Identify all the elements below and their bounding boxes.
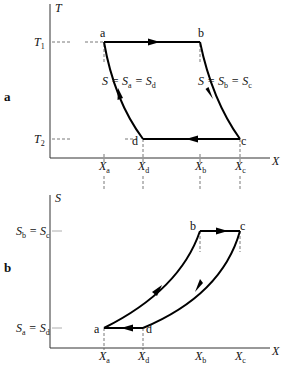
s-axis-label: S xyxy=(55,191,61,205)
panel-a: a T X T1 T2 xyxy=(4,1,280,190)
carnot-cycle-diagram: a T X T1 T2 xyxy=(0,0,282,367)
arrow-cd-icon xyxy=(186,136,198,143)
arrow-bc-icon xyxy=(206,87,214,99)
tick-xd-b: Xd xyxy=(137,349,149,365)
tick-sb-sc: Sb = Sc xyxy=(16,224,50,240)
point-a-label-b: a xyxy=(94,322,100,336)
x-axis-label-b: X xyxy=(271,344,280,358)
panel-b-label: b xyxy=(4,260,11,275)
tick-xa-b: Xa xyxy=(98,349,110,365)
annotation-sb-sc: S = Sb = Sc xyxy=(198,74,252,90)
svg-text:T1: T1 xyxy=(34,35,45,51)
tick-xc-b: Xc xyxy=(234,349,246,365)
arrow-da-b-icon xyxy=(121,325,133,332)
tick-xb-b: Xb xyxy=(194,349,206,365)
adiabat-da xyxy=(104,42,143,139)
tick-t2: T2 xyxy=(34,132,45,148)
arrow-da-icon xyxy=(118,88,124,100)
svg-text:T2: T2 xyxy=(34,132,45,148)
arrow-cd-b-icon xyxy=(195,279,203,292)
arrow-bc-b-icon xyxy=(216,228,228,235)
point-b-label-a: b xyxy=(198,26,204,40)
adiabat-bc xyxy=(200,42,240,139)
point-d-label-b: d xyxy=(146,322,152,336)
tick-xc-a: Xc xyxy=(234,159,246,175)
annotation-sa-sd: S = Sa = Sd xyxy=(102,74,156,90)
point-d-label-a: d xyxy=(132,134,138,148)
point-c-label-b: c xyxy=(240,219,245,233)
tick-xd-a: Xd xyxy=(137,159,149,175)
point-b-label-b: b xyxy=(190,219,196,233)
x-axis-label-a: X xyxy=(271,154,280,168)
tick-xa-a: Xa xyxy=(98,159,110,175)
isotherm-cd-b xyxy=(143,231,240,328)
point-c-label-a: c xyxy=(241,134,246,148)
panel-b: b S X Sb = Sc Sa = Sd a b c d Xa Xd xyxy=(4,191,280,365)
arrow-ab-icon xyxy=(148,39,160,46)
tick-xb-a: Xb xyxy=(194,159,206,175)
tick-sa-sd: Sa = Sd xyxy=(16,321,50,337)
point-a-label-a: a xyxy=(100,26,106,40)
panel-a-label: a xyxy=(4,89,11,104)
t-axis-label: T xyxy=(55,1,63,15)
tick-t1: T1 xyxy=(34,35,45,51)
isotherm-ab-b xyxy=(104,231,200,328)
